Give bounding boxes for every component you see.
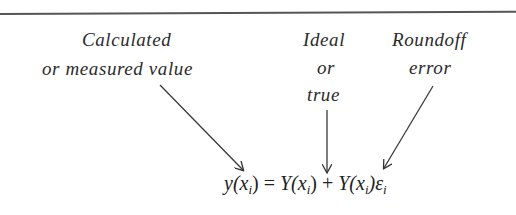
equation: y(xi) = Y(xi) + Y(xi)εi — [224, 172, 387, 198]
arrow-calculated — [160, 85, 243, 170]
eq-lhs: y(x — [224, 172, 248, 194]
eq-plus: + — [317, 172, 338, 194]
eq-equals: = — [259, 172, 280, 194]
arrow-roundoff — [384, 86, 433, 168]
eq-term2-eps-sub: i — [383, 182, 387, 197]
eq-lhs-close: ) — [252, 172, 259, 194]
eq-term2: Y(x — [338, 172, 365, 194]
eq-term2-close: )ε — [369, 172, 384, 194]
eq-term1: Y(x — [280, 172, 307, 194]
eq-term1-close: ) — [310, 172, 317, 194]
